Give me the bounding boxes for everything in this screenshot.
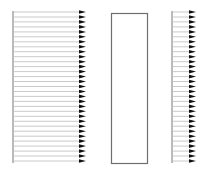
arrowhead-icon xyxy=(79,149,86,153)
arrowhead-icon xyxy=(79,15,86,19)
arrowhead-icon xyxy=(189,55,196,59)
left-arrow-field xyxy=(13,10,86,163)
arrowhead-icon xyxy=(189,15,196,19)
arrowhead-icon xyxy=(79,40,86,44)
arrowhead-icon xyxy=(189,65,196,69)
arrowhead-icon xyxy=(189,30,196,34)
arrowhead-icon xyxy=(79,20,86,24)
arrowhead-icon xyxy=(79,154,86,158)
arrowhead-icon xyxy=(79,134,86,138)
arrowhead-icon xyxy=(189,70,196,74)
arrowhead-icon xyxy=(79,159,86,163)
arrowhead-icon xyxy=(189,129,196,133)
arrowhead-icon xyxy=(189,110,196,114)
arrowhead-icon xyxy=(189,105,196,109)
arrowhead-icon xyxy=(189,139,196,143)
arrowhead-icon xyxy=(189,124,196,128)
middle-rectangle xyxy=(112,14,148,164)
arrowhead-icon xyxy=(79,70,86,74)
arrowhead-icon xyxy=(79,80,86,84)
arrowhead-icon xyxy=(189,20,196,24)
arrowhead-icon xyxy=(189,90,196,94)
arrowhead-icon xyxy=(79,144,86,148)
arrowhead-icon xyxy=(79,85,86,89)
arrowhead-icon xyxy=(189,100,196,104)
arrowhead-icon xyxy=(79,75,86,79)
arrowhead-icon xyxy=(79,110,86,114)
arrowhead-icon xyxy=(79,95,86,99)
arrowhead-icon xyxy=(79,90,86,94)
arrowhead-icon xyxy=(189,25,196,29)
arrowhead-icon xyxy=(79,100,86,104)
arrowhead-icon xyxy=(79,10,86,14)
arrowhead-icon xyxy=(79,105,86,109)
arrowhead-icon xyxy=(79,139,86,143)
arrowhead-icon xyxy=(189,149,196,153)
arrowhead-icon xyxy=(79,30,86,34)
arrowhead-icon xyxy=(189,120,196,124)
arrowhead-icon xyxy=(189,50,196,54)
arrowhead-icon xyxy=(189,134,196,138)
arrowhead-icon xyxy=(189,10,196,14)
arrowhead-icon xyxy=(79,55,86,59)
arrowhead-icon xyxy=(79,120,86,124)
arrowhead-icon xyxy=(189,80,196,84)
arrowhead-icon xyxy=(189,60,196,64)
arrowhead-icon xyxy=(189,45,196,49)
arrowhead-icon xyxy=(189,40,196,44)
arrowhead-icon xyxy=(79,124,86,128)
arrowhead-icon xyxy=(79,35,86,39)
arrowhead-icon xyxy=(189,115,196,119)
arrowhead-icon xyxy=(79,45,86,49)
arrowhead-icon xyxy=(79,25,86,29)
arrowhead-icon xyxy=(79,129,86,133)
arrowhead-icon xyxy=(189,85,196,89)
arrowhead-icon xyxy=(189,35,196,39)
arrowhead-icon xyxy=(79,50,86,54)
arrowhead-icon xyxy=(189,75,196,79)
diagram-canvas xyxy=(0,0,209,175)
arrowhead-icon xyxy=(79,65,86,69)
arrowhead-icon xyxy=(79,115,86,119)
right-arrow-field xyxy=(172,10,196,163)
arrowhead-icon xyxy=(189,95,196,99)
rectangle-outline xyxy=(112,14,148,164)
arrowhead-icon xyxy=(189,154,196,158)
arrowhead-icon xyxy=(79,60,86,64)
arrowhead-icon xyxy=(189,144,196,148)
arrowhead-icon xyxy=(189,159,196,163)
